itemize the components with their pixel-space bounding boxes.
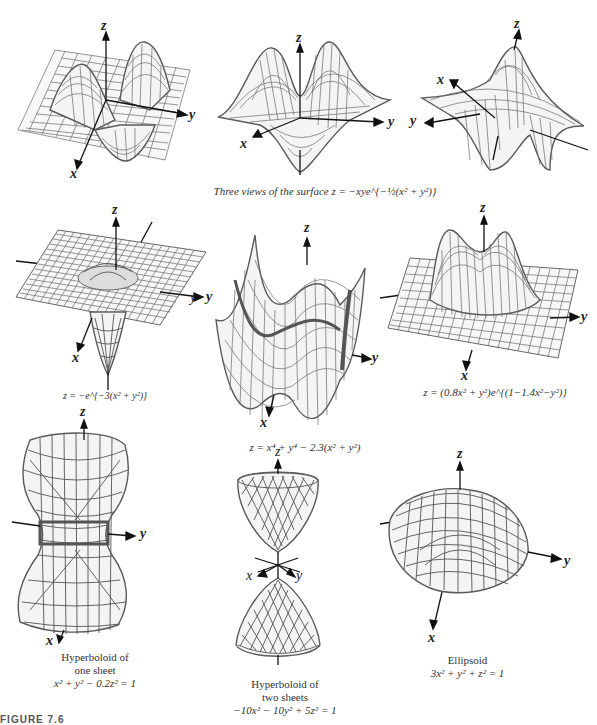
figure-label: FIGURE 7.6 (0, 714, 64, 725)
surface-hyperboloid-two-sheets (190, 450, 370, 672)
panel-hyperboloid-two-sheets: z x y (190, 450, 370, 672)
axis-label-z: z (514, 16, 519, 32)
panel-gaussian-well: z y x (0, 200, 220, 400)
panel-saddle-view-2: z y x (200, 0, 400, 180)
panel-twin-peaks: z y x (380, 200, 597, 385)
panel-quartic: z y y x (200, 220, 380, 435)
surface-saddle-view-1 (0, 0, 200, 180)
panel-saddle-view-3: z x y (400, 0, 597, 180)
surface-twin-peaks (380, 200, 597, 385)
surface-hyperboloid-one-sheet (0, 430, 200, 645)
panel-saddle-view-1: z y x (0, 0, 200, 180)
caption-line-2: 3x² + y² + z² = 1 (410, 667, 525, 680)
axis-label-z: z (304, 220, 309, 236)
caption-line-3: x² + y² − 0.2z² = 1 (40, 677, 150, 690)
caption-line-1: Hyperboloid of (220, 678, 350, 691)
panel-ellipsoid: z y x (380, 440, 597, 650)
caption-line-2: one sheet (40, 664, 150, 677)
axis-label-z: z (457, 446, 462, 462)
panel-hyperboloid-one-sheet: z y x (0, 430, 200, 645)
axis-label-z: z (112, 202, 117, 218)
axis-label-y: y (410, 113, 416, 129)
axis-label-x: x (461, 368, 468, 384)
caption-ellipsoid: Ellipsoid 3x² + y² + z² = 1 (410, 654, 525, 680)
surface-ellipsoid (380, 440, 597, 650)
axis-label-x: x (246, 568, 252, 584)
axis-label-y: y (581, 309, 587, 325)
caption-line-2: two sheets (220, 691, 350, 704)
caption-gaussian-well: z = −e^{−3(x² + y²)} (30, 389, 180, 402)
axis-label-z: z (80, 404, 85, 420)
surface-saddle-view-3 (400, 0, 597, 180)
caption-line-1: Hyperboloid of (40, 651, 150, 664)
caption-hyperboloid-two-sheets: Hyperboloid of two sheets −10x² − 10y² +… (220, 678, 350, 717)
axis-label-y-left: y (190, 290, 196, 306)
axis-label-y: y (388, 114, 394, 130)
axis-label-x: x (70, 166, 77, 182)
surface-saddle-view-2 (200, 0, 400, 180)
axis-label-x: x (72, 350, 79, 366)
axis-label-y: y (189, 107, 195, 123)
axis-label-y: y (140, 526, 146, 542)
caption-twin-peaks: z = (0.8x² + y²)e^{(1−1.4x²−y²)} (405, 386, 585, 399)
axis-label-x: x (437, 72, 444, 88)
axis-label-z: z (101, 18, 106, 34)
caption-line-1: Ellipsoid (410, 654, 525, 667)
axis-label-y: y (564, 553, 570, 569)
axis-label-z: z (275, 444, 280, 460)
axis-label-x: x (428, 630, 435, 646)
axis-label-x: x (260, 415, 267, 431)
axis-label-x: x (46, 633, 53, 649)
caption-saddle-views: Three views of the surface z = −xye^{−½(… (200, 185, 450, 198)
axis-label-y: y (296, 568, 302, 584)
axis-label-z: z (296, 30, 301, 46)
surface-gaussian-well (0, 200, 220, 400)
caption-line-3: −10x² − 10y² + 5z² = 1 (220, 704, 350, 717)
surface-quartic (200, 220, 380, 435)
axis-label-x: x (240, 136, 247, 152)
caption-hyperboloid-one-sheet: Hyperboloid of one sheet x² + y² − 0.2z²… (40, 651, 150, 690)
axis-label-z: z (480, 200, 485, 216)
axis-label-y: y (372, 350, 378, 366)
